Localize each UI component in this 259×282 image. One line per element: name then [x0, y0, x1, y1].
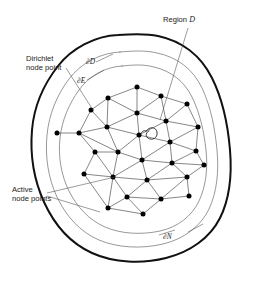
mesh-edge-group [57, 87, 204, 214]
boundary-mid-dE [46, 51, 217, 247]
mesh-edge [161, 177, 187, 199]
mesh-edge [107, 98, 108, 127]
label-boundary-d: ∂D [86, 57, 96, 66]
mesh-node-point [55, 131, 60, 136]
mesh-node-point [135, 111, 140, 116]
mesh-node-point [125, 195, 130, 200]
mesh-edge [118, 152, 142, 160]
mesh-edge [161, 96, 187, 104]
mesh-node-point [77, 131, 82, 136]
mesh-node-point [185, 102, 190, 107]
figure-container: Region D Dirichlet node point Active nod… [0, 0, 259, 282]
label-dirichlet-line2: node point [26, 63, 62, 72]
label-boundary-e: ∂E [77, 76, 86, 85]
mesh-edge [107, 113, 137, 127]
mesh-edge [127, 180, 147, 197]
mesh-edge [108, 98, 137, 113]
mesh-edge [187, 177, 189, 196]
spiral-icon [146, 128, 157, 139]
mesh-edge [142, 142, 170, 160]
mesh-edge [108, 208, 143, 214]
mesh-edge [79, 127, 107, 133]
label-region-d: Region D [163, 15, 195, 24]
mesh-edge [118, 135, 139, 152]
mesh-edge [147, 177, 187, 180]
mesh-edge [166, 121, 170, 142]
mesh-edge [139, 135, 142, 160]
active-leader-1 [47, 177, 115, 193]
mesh-edge [166, 121, 198, 127]
mesh-edge [137, 96, 161, 113]
mesh-edge [108, 177, 113, 208]
mesh-node-point [145, 178, 150, 183]
mesh-node-point [135, 85, 140, 90]
mesh-edge [107, 127, 139, 135]
boundary-n-leader-2 [188, 224, 203, 232]
mesh-node-point [140, 158, 145, 163]
boundary-e-leader [87, 70, 104, 80]
mesh-edge [137, 87, 161, 96]
mesh-edge [137, 113, 139, 135]
label-boundary-n: ∂N [163, 232, 173, 241]
dirichlet-leader [66, 68, 93, 110]
mesh-edge [113, 177, 147, 180]
mesh-edge [172, 163, 204, 165]
mesh-edge [170, 142, 172, 163]
label-active-line2: node points [12, 194, 51, 203]
mesh-node-point [106, 96, 111, 101]
boundary-d-leader [96, 54, 113, 62]
mesh-node-point [187, 194, 192, 199]
mesh-edge [166, 104, 187, 121]
mesh-node-point [185, 175, 190, 180]
mesh-edge [91, 110, 107, 127]
mesh-edge [113, 177, 127, 197]
mesh-node-point [116, 150, 121, 155]
boundary-inner-dN [59, 65, 206, 233]
mesh-edge [113, 152, 118, 177]
mesh-edge [127, 197, 161, 199]
mesh-node-point [170, 161, 175, 166]
mesh-edge [187, 165, 204, 177]
label-active-line1: Active [12, 185, 33, 194]
mesh-edge [79, 133, 118, 152]
mesh-node-point [141, 212, 146, 217]
mesh-node-point [159, 197, 164, 202]
mesh-edge [91, 98, 108, 110]
mesh-node-point [93, 150, 98, 155]
mesh-edge [108, 87, 137, 98]
mesh-edge [147, 180, 161, 199]
mesh-edge [143, 199, 161, 214]
mesh-node-point [82, 172, 87, 177]
mesh-edge [113, 160, 142, 177]
mesh-node-point [159, 94, 164, 99]
mesh-edge [170, 127, 198, 142]
mesh-edge [147, 163, 172, 180]
mesh-diagram: Region D Dirichlet node point Active nod… [0, 0, 259, 282]
mesh-node-point [106, 206, 111, 211]
mesh-node-point [105, 125, 110, 130]
mesh-edge [142, 160, 172, 163]
mesh-edge [172, 151, 196, 163]
mesh-edge [79, 110, 91, 133]
mesh-edge [108, 197, 127, 208]
mesh-edge [79, 133, 95, 152]
mesh-edge [161, 196, 189, 199]
mesh-edge [84, 152, 95, 174]
mesh-node-point [194, 149, 199, 154]
mesh-edge [84, 174, 113, 177]
mesh-edge [95, 152, 113, 177]
mesh-edge [172, 163, 187, 177]
mesh-edge [107, 127, 118, 152]
mesh-edge [196, 127, 198, 151]
mesh-node-point [196, 125, 201, 130]
label-dirichlet-line1: Dirichlet [26, 54, 54, 63]
mesh-node-point [164, 119, 169, 124]
mesh-node-point [168, 140, 173, 145]
mesh-edge [84, 174, 108, 208]
mesh-edge [170, 142, 196, 151]
mesh-node-point [202, 163, 207, 168]
mesh-edge [142, 160, 147, 180]
label-region-symbol: D [188, 15, 195, 24]
